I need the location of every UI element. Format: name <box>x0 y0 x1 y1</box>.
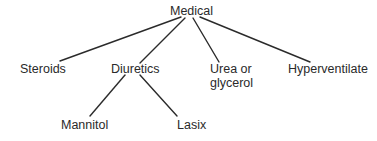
node-urea-line1: Urea or <box>210 62 252 76</box>
edge-diuretics-lasix <box>140 75 177 116</box>
treatment-tree-diagram: Medical Steroids Diuretics Urea or glyce… <box>0 0 377 141</box>
edge-medical-diuretics <box>140 18 185 63</box>
edge-medical-hyperventilate <box>200 17 310 62</box>
node-steroids: Steroids <box>20 62 66 76</box>
node-diuretics: Diuretics <box>111 62 160 76</box>
node-lasix: Lasix <box>177 118 206 132</box>
node-medical: Medical <box>170 4 213 18</box>
node-mannitol: Mannitol <box>61 118 108 132</box>
node-hyperventilate: Hyperventilate <box>288 62 368 76</box>
edge-medical-steroids <box>60 17 181 61</box>
edge-diuretics-mannitol <box>90 75 125 116</box>
edge-medical-urea <box>193 18 219 62</box>
node-urea-line2: glycerol <box>210 76 253 90</box>
